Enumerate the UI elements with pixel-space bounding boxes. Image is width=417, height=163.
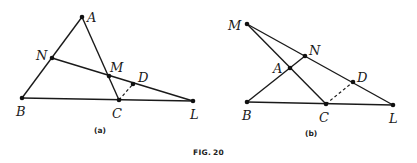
figure-caption-number: 20	[213, 148, 224, 157]
segment-ml	[247, 24, 393, 105]
figure-20-diagram: A N M D B C L (a) M N A D B C L (b) FIG.…	[0, 0, 417, 163]
caption-b: (b)	[305, 129, 317, 138]
segment-cd-dashed	[326, 82, 353, 104]
figure-caption-prefix: FIG.	[193, 148, 211, 157]
point-n	[50, 56, 55, 61]
segment-bl	[22, 98, 193, 101]
point-a	[288, 66, 293, 71]
label-n: N	[35, 48, 48, 63]
point-l	[391, 103, 396, 108]
label-m: M	[109, 60, 124, 75]
label-c: C	[319, 110, 329, 125]
label-l: L	[388, 111, 398, 126]
label-a: A	[272, 61, 282, 76]
point-l	[191, 99, 196, 104]
label-d: D	[137, 70, 149, 85]
label-b: B	[15, 104, 26, 119]
point-d	[131, 82, 136, 87]
segment-ac	[82, 17, 119, 100]
point-d	[351, 80, 356, 85]
panel-a: A N M D B C L (a)	[15, 10, 199, 135]
point-b	[245, 100, 250, 105]
label-d: D	[356, 70, 368, 85]
point-c	[117, 98, 122, 103]
figure-caption: FIG. 20	[193, 148, 224, 157]
label-c: C	[112, 106, 122, 121]
point-n	[303, 54, 308, 59]
segment-cd-dashed	[119, 84, 133, 100]
segment-bl	[247, 102, 393, 105]
point-c	[324, 102, 329, 107]
label-l: L	[189, 107, 199, 122]
label-m: M	[227, 18, 242, 33]
caption-a: (a)	[94, 126, 106, 135]
panel-b: M N A D B C L (b)	[227, 18, 398, 138]
point-m	[245, 22, 250, 27]
label-a: A	[86, 10, 96, 25]
label-b: B	[241, 108, 252, 123]
label-n: N	[308, 43, 321, 58]
point-b	[20, 96, 25, 101]
point-a	[80, 15, 85, 20]
